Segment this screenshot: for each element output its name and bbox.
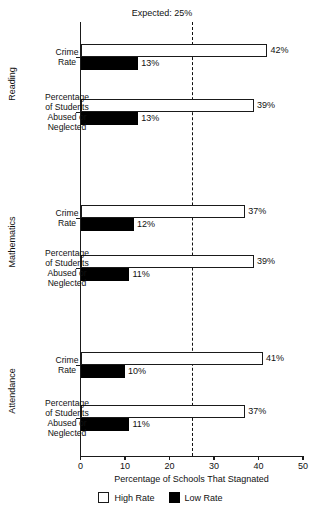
bar-value-label: 42% [270,44,288,57]
legend-item-low-rate: Low Rate [169,492,223,503]
expected-reference-label: Expected: 25% [132,8,193,18]
x-axis-line [80,456,303,457]
bar-reading-1-high-rate [81,99,255,112]
group-label-attendance: Attendance [7,346,17,436]
expected-reference-line [192,22,193,456]
bar-chart: Expected: 25% 01020304050 42%13%39%13%37… [0,0,321,524]
category-label-line: Rate [34,218,100,228]
x-tick-label-40: 40 [244,461,274,472]
bar-value-label: 10% [128,365,146,378]
y-axis-line [80,22,81,456]
x-tick-20 [169,456,170,460]
bar-value-label: 41% [266,352,284,365]
category-label: Percentageof StudentsAbused orNeglected [34,248,100,288]
x-tick-label-20: 20 [155,461,185,472]
x-tick-0 [80,456,81,460]
bar-mathematics-0-high-rate [81,205,246,218]
bar-value-label: 11% [132,418,149,431]
category-label: CrimeRate [34,208,100,228]
category-label: Percentageof StudentsAbused orNeglected [34,92,100,132]
x-tick-10 [124,456,125,460]
category-label-line: Rate [34,365,100,375]
x-axis-title: Percentage of Schools That Stagnated [80,474,303,484]
group-label-reading: Reading [7,39,17,129]
x-tick-label-10: 10 [110,461,140,472]
bar-value-label: 11% [132,268,149,281]
legend-swatch-low-rate [169,492,180,503]
bar-attendance-1-high-rate [81,405,246,418]
x-tick-40 [258,456,259,460]
category-label: Percentageof StudentsAbused orNeglected [34,398,100,438]
bar-value-label: 39% [257,255,275,268]
x-tick-30 [213,456,214,460]
category-label-line: Abused or [34,418,100,428]
x-tick-label-50: 50 [288,461,318,472]
category-label-line: Neglected [34,278,100,288]
legend-label-low-rate: Low Rate [185,493,223,503]
bar-value-label: 37% [248,405,266,418]
bar-value-label: 37% [248,205,266,218]
category-label-line: of Students [34,102,100,112]
category-label-line: Crime [34,47,100,57]
category-label-line: of Students [34,258,100,268]
x-tick-label-30: 30 [199,461,229,472]
bar-value-label: 13% [141,112,159,125]
x-tick-label-0: 0 [66,461,96,472]
category-label-line: Crime [34,355,100,365]
category-label-line: Abused or [34,268,100,278]
category-label: CrimeRate [34,355,100,375]
category-label-line: Percentage [34,398,100,408]
legend-swatch-high-rate [98,492,109,503]
bar-reading-0-high-rate [81,44,268,57]
category-label: CrimeRate [34,47,100,67]
category-label-line: Rate [34,57,100,67]
legend-label-high-rate: High Rate [114,493,154,503]
bar-value-label: 12% [137,218,155,231]
category-label-line: Percentage [34,92,100,102]
category-label-line: Crime [34,208,100,218]
category-label-line: Neglected [34,428,100,438]
group-label-mathematics: Mathematics [7,197,17,287]
chart-legend: High Rate Low Rate [0,492,321,503]
bar-attendance-0-high-rate [81,352,263,365]
x-tick-50 [302,456,303,460]
category-label-line: of Students [34,408,100,418]
bar-value-label: 13% [141,57,159,70]
category-label-line: Percentage [34,248,100,258]
legend-item-high-rate: High Rate [98,492,154,503]
category-label-line: Abused or [34,112,100,122]
bar-mathematics-1-high-rate [81,255,255,268]
category-label-line: Neglected [34,122,100,132]
bar-value-label: 39% [257,99,275,112]
